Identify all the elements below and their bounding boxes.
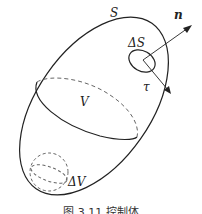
control-volume-figure: S n ΔS τ V ΔV 图 3.11 控制体 <box>0 0 202 214</box>
surface-element-outline <box>125 45 159 76</box>
normal-vector-line <box>143 28 188 60</box>
normal-label: n <box>174 8 183 22</box>
cross-section-front-arc <box>36 82 137 140</box>
control-volume-diagram: S n ΔS τ V ΔV <box>0 0 202 214</box>
surface-element-label: ΔS <box>127 36 145 50</box>
volume-element-sphere <box>30 153 68 191</box>
volume-label: V <box>80 95 90 109</box>
volume-element-label: ΔV <box>67 175 87 189</box>
volume-element-equator <box>29 161 69 187</box>
surface-label: S <box>110 6 118 20</box>
tangent-label: τ <box>143 80 150 94</box>
normal-arrowhead-icon <box>183 25 192 33</box>
control-surface-outline <box>0 0 199 214</box>
figure-caption: 图 3.11 控制体 <box>0 203 202 214</box>
